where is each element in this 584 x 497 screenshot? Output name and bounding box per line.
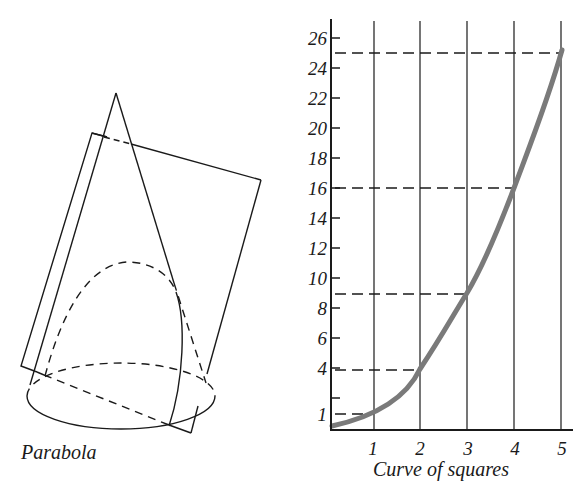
cone-parabola-diagram [21, 93, 261, 433]
x-label-3: 3 [462, 438, 473, 459]
square-guides [335, 53, 561, 414]
chart-caption: Curve of squares [373, 458, 509, 481]
y-label-22: 22 [308, 88, 328, 109]
y-label-26: 26 [308, 28, 328, 49]
figure-canvas: Parabola [0, 0, 584, 497]
y-label-1: 1 [318, 404, 328, 425]
y-label-14: 14 [308, 208, 328, 229]
parabola-caption: Parabola [20, 441, 97, 463]
parabola-section [45, 262, 182, 426]
cone [27, 93, 215, 429]
y-label-18: 18 [308, 148, 328, 169]
y-ticks [331, 38, 340, 398]
x-label-4: 4 [510, 438, 520, 459]
y-label-8: 8 [318, 298, 328, 319]
y-label-6: 6 [318, 328, 328, 349]
y-label-20: 20 [308, 118, 328, 139]
vertical-gridlines [374, 21, 561, 430]
x-tick-labels: 1 2 3 4 5 [368, 438, 567, 459]
curve-of-squares-chart: 26 24 22 20 18 16 14 12 10 8 6 4 1 1 2 3… [308, 19, 573, 481]
axes [331, 19, 573, 431]
y-label-12: 12 [308, 238, 328, 259]
y-label-24: 24 [308, 58, 328, 79]
x-label-1: 1 [368, 438, 378, 459]
y-label-16: 16 [308, 178, 328, 199]
squares-curve [332, 50, 562, 426]
x-label-2: 2 [415, 438, 425, 459]
cutting-plane [21, 133, 261, 433]
x-label-5: 5 [557, 438, 567, 459]
y-tick-labels: 26 24 22 20 18 16 14 12 10 8 6 4 1 [308, 28, 328, 425]
y-label-4: 4 [318, 358, 328, 379]
y-label-10: 10 [308, 268, 328, 289]
